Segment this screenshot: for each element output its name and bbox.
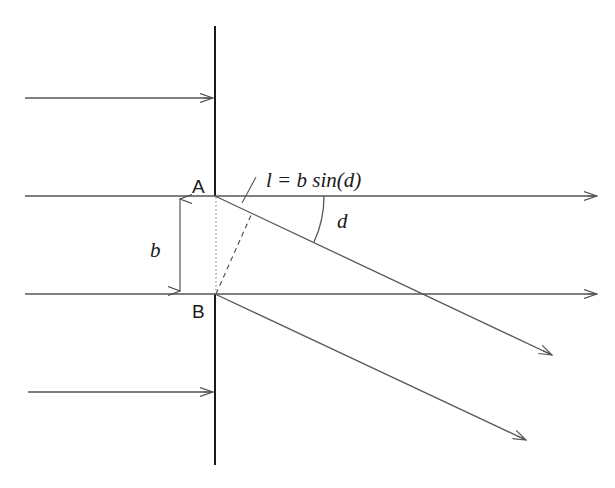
diffracted-ray-b — [215, 294, 526, 440]
diagram-canvas: A B b d l = b sin(d) — [0, 0, 615, 488]
label-angle-d: d — [337, 209, 348, 233]
label-separation-b: b — [150, 238, 161, 262]
label-point-a: A — [192, 176, 205, 197]
label-formula: l = b sin(d) — [266, 168, 361, 192]
angle-arc — [314, 196, 324, 242]
formula-leader-line — [242, 177, 256, 203]
path-difference-dashed-line — [216, 213, 252, 294]
label-point-b: B — [192, 301, 205, 322]
diffracted-ray-a — [215, 196, 552, 355]
